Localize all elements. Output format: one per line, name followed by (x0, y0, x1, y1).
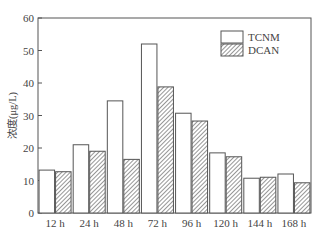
plot-area: 0102030405060浓度(μg/L)12 h24 h48 h72 h96 … (6, 12, 311, 229)
legend-swatch-tcnm (221, 31, 243, 43)
x-tick-label: 120 h (213, 217, 238, 229)
legend: TCNMDCAN (221, 31, 280, 56)
legend-label-dcan: DCAN (248, 44, 279, 56)
x-tick-label: 72 h (148, 217, 168, 229)
bar-tcnm (141, 44, 157, 213)
legend-label-tcnm: TCNM (248, 31, 280, 43)
y-tick-label: 40 (23, 77, 35, 89)
bar-dcan (124, 159, 140, 213)
bar-dcan (192, 121, 208, 213)
legend-swatch-dcan (221, 44, 243, 56)
bar-tcnm (107, 101, 123, 213)
bar-dcan (226, 157, 242, 213)
bar-chart: 0102030405060浓度(μg/L)12 h24 h48 h72 h96 … (0, 0, 321, 238)
y-tick-label: 10 (23, 175, 35, 187)
bar-tcnm (278, 174, 294, 213)
y-tick-label: 60 (23, 12, 35, 24)
bar-dcan (260, 177, 276, 213)
bar-tcnm (210, 153, 226, 213)
x-tick-label: 12 h (45, 217, 65, 229)
bar-tcnm (73, 145, 89, 213)
y-tick-label: 20 (23, 142, 35, 154)
y-tick-label: 0 (29, 207, 35, 219)
x-tick-label: 168 h (282, 217, 307, 229)
y-tick-label: 30 (23, 110, 35, 122)
y-tick-label: 50 (23, 45, 35, 57)
x-tick-label: 24 h (80, 217, 100, 229)
bar-dcan (158, 87, 174, 213)
bar-tcnm (244, 178, 260, 213)
bar-dcan (90, 151, 106, 213)
bar-dcan (294, 183, 310, 213)
x-tick-label: 96 h (182, 217, 202, 229)
x-tick-label: 144 h (247, 217, 272, 229)
y-axis-label: 浓度(μg/L) (6, 91, 19, 139)
bar-dcan (56, 172, 72, 213)
bar-tcnm (39, 170, 55, 213)
bar-tcnm (176, 113, 192, 213)
x-tick-label: 48 h (114, 217, 134, 229)
